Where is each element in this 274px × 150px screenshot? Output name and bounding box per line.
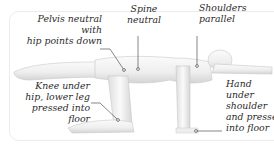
annotation-spine: Spine neutral [114,3,174,25]
annotation-shoulders: Shoulders parallel [199,2,259,24]
support-arm-shape [176,66,190,131]
annotation-hand: Hand under shoulder and pressed into flo… [226,78,274,133]
hand-marker [195,130,198,133]
support-thigh-shape [108,76,132,126]
spine-marker [137,68,140,71]
extended-arm-shape [212,64,272,74]
shoulders-marker [196,65,199,68]
pelvis-marker [123,69,126,72]
knee-marker [117,119,120,122]
annotation-pelvis: Pelvis neutral with hip points down [18,13,102,46]
annotation-knee: Knee under hip, lower leg pressed into f… [12,80,90,124]
